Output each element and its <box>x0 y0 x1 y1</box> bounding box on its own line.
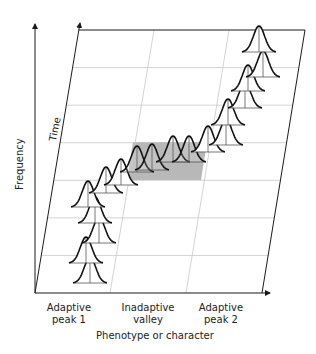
region-label-valley: Inadaptive valley <box>117 302 179 326</box>
phenotype-axis-label: Phenotype or character <box>80 330 230 342</box>
distribution-curves <box>69 26 280 283</box>
time-axis <box>35 23 80 293</box>
region-label-peak-1: Adaptive peak 1 <box>44 302 94 326</box>
distribution-curve <box>246 51 280 77</box>
region-label-line: Inadaptive <box>117 302 179 314</box>
region-label-line: valley <box>117 314 179 326</box>
frequency-axis-label: Frequency <box>14 138 25 190</box>
region-label-line: peak 2 <box>196 314 246 326</box>
region-label-line: peak 1 <box>44 314 94 326</box>
region-label-peak-2: Adaptive peak 2 <box>196 302 246 326</box>
region-label-line: Adaptive <box>44 302 94 314</box>
region-label-line: Adaptive <box>196 302 246 314</box>
evolution-diagram <box>0 0 316 354</box>
